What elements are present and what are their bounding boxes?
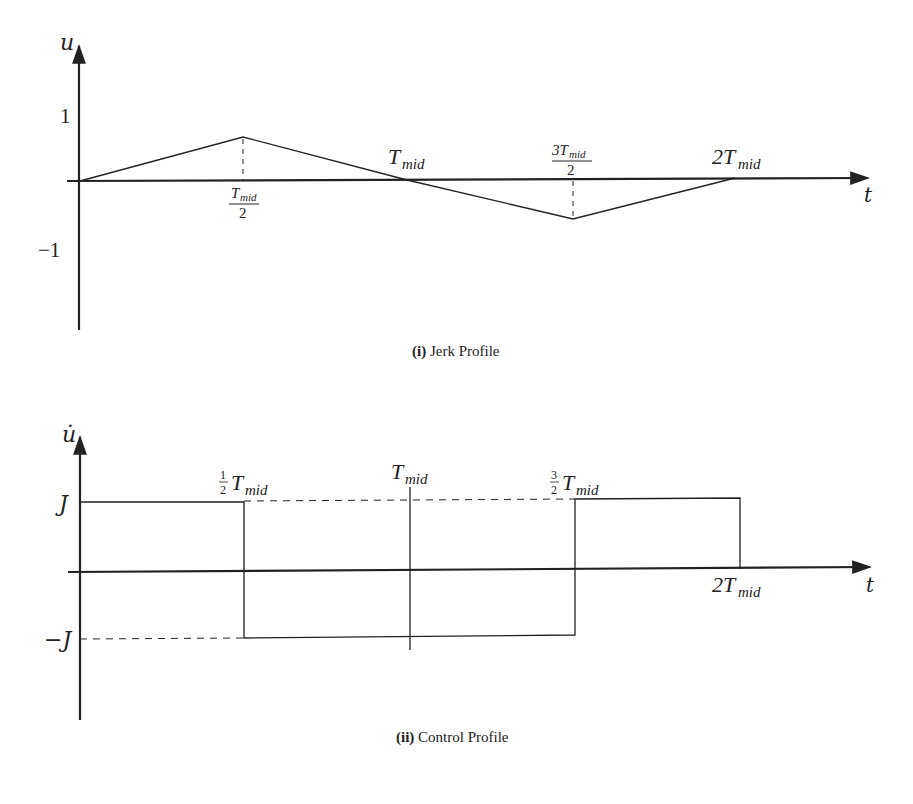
y-tick-minus-j: −J [44, 627, 72, 652]
y-axis-label: u [60, 30, 74, 55]
caption-label: (ii) [396, 729, 414, 745]
label-tmid-half: T mid 2 [229, 185, 259, 221]
label-tmid: T mid [391, 459, 428, 487]
svg-text:mid: mid [240, 191, 257, 203]
x-axis [67, 178, 868, 181]
caption-control-profile: (ii) Control Profile [396, 729, 509, 746]
control-profile-chart: u̇ J −J t 1 2 T mid T mid 3 2 T mid 2T [44, 422, 875, 720]
caption-jerk-profile: (i) Jerk Profile [412, 343, 500, 360]
x-axis [68, 567, 870, 572]
jerk-profile-chart: u 1 −1 t T mid 2 T mid 3T mid 2 2T mid [38, 30, 873, 330]
svg-text:3T: 3T [551, 142, 570, 158]
figure-canvas: u 1 −1 t T mid 2 T mid 3T mid 2 2T mid [0, 0, 913, 804]
svg-text:1: 1 [220, 468, 226, 482]
svg-text:2: 2 [220, 483, 226, 497]
label-three-half-tmid: 3 2 T mid [550, 468, 599, 498]
svg-text:2: 2 [567, 162, 575, 178]
caption-text: Jerk Profile [430, 343, 500, 359]
label-two-tmid: 2T mid [712, 572, 761, 600]
svg-text:T: T [391, 459, 405, 484]
svg-text:2: 2 [239, 205, 247, 221]
svg-text:T: T [562, 470, 576, 495]
svg-text:T: T [231, 470, 245, 495]
svg-text:2: 2 [551, 483, 557, 497]
label-half-tmid: 1 2 T mid [219, 468, 268, 498]
x-axis-label: t [866, 573, 875, 597]
caption-text: Control Profile [418, 729, 508, 745]
svg-text:T: T [388, 144, 402, 169]
svg-text:mid: mid [402, 156, 425, 172]
caption-label: (i) [412, 343, 426, 359]
y-tick-minus-1: −1 [38, 238, 60, 262]
svg-text:2T: 2T [712, 572, 737, 597]
dashed-line-minus-j [80, 638, 244, 639]
label-two-tmid: 2T mid [712, 144, 761, 172]
label-three-tmid-half: 3T mid 2 [551, 142, 592, 178]
y-tick-j: J [55, 491, 69, 516]
svg-text:mid: mid [405, 471, 428, 487]
svg-text:mid: mid [569, 148, 586, 160]
svg-text:mid: mid [738, 156, 761, 172]
y-tick-1: 1 [60, 104, 71, 128]
y-axis-label: u̇ [62, 422, 76, 447]
svg-text:mid: mid [245, 482, 268, 498]
svg-text:3: 3 [551, 468, 557, 482]
svg-text:mid: mid [738, 584, 761, 600]
label-tmid: T mid [388, 144, 425, 172]
svg-text:2T: 2T [712, 144, 737, 169]
x-axis-label: t [864, 183, 873, 207]
svg-text:mid: mid [576, 482, 599, 498]
